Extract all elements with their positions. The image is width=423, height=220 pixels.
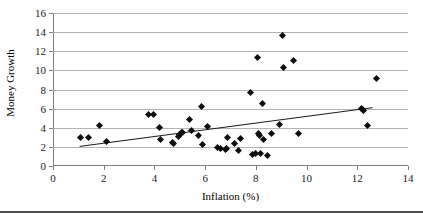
y-tick-label: 10 — [35, 65, 46, 76]
x-tick-mark — [408, 166, 409, 170]
x-axis-title: Inflation (%) — [53, 190, 408, 202]
y-tick-label: 12 — [35, 46, 46, 57]
y-tick-label: 14 — [35, 27, 46, 38]
x-tick-mark — [357, 166, 358, 170]
x-tick-mark — [154, 166, 155, 170]
x-tick-mark — [104, 166, 105, 170]
x-tick-label: 6 — [202, 173, 208, 184]
x-tick-label: 8 — [253, 173, 259, 184]
x-tick-mark — [256, 166, 257, 170]
x-tick-label: 4 — [152, 173, 158, 184]
x-tick-label: 2 — [101, 173, 107, 184]
bottom-divider — [0, 211, 423, 213]
x-tick-mark — [53, 166, 54, 170]
y-tick-label: 0 — [41, 161, 47, 172]
y-axis-title-label: Money Growth — [4, 49, 16, 117]
y-tick-label: 4 — [41, 122, 47, 133]
x-tick-label: 0 — [50, 173, 56, 184]
x-tick-label: 10 — [301, 173, 312, 184]
x-tick-mark — [205, 166, 206, 170]
y-tick-label: 6 — [41, 103, 47, 114]
y-axis-title: Money Growth — [2, 0, 18, 166]
plot-area: 0246810121416 02468101214 — [53, 13, 408, 166]
y-tick-label: 8 — [41, 84, 47, 95]
y-tick-label: 16 — [35, 8, 46, 19]
x-tick-label: 12 — [352, 173, 363, 184]
y-tick-label: 2 — [41, 141, 47, 152]
x-tick-label: 14 — [403, 173, 414, 184]
x-axis-title-label: Inflation (%) — [202, 190, 259, 202]
scatter-chart-figure: Money Growth 0246810121416 02468101214 I… — [0, 0, 423, 220]
x-tick-mark — [307, 166, 308, 170]
